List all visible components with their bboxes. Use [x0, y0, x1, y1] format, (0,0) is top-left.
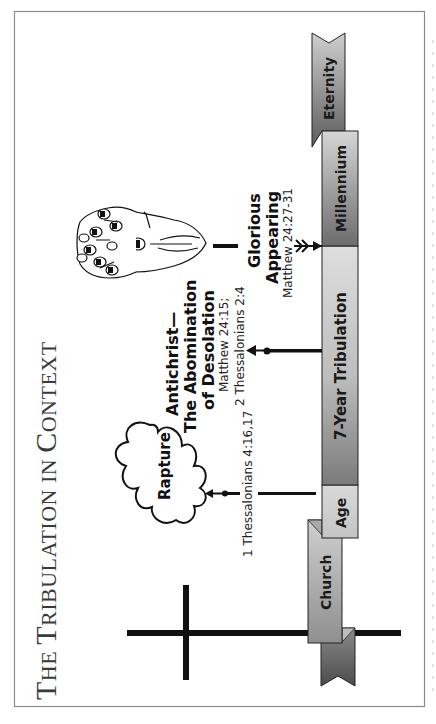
svg-text:Millennium: Millennium [333, 145, 349, 232]
page-title: THE TRIBULATION IN CONTEXT [29, 341, 62, 700]
svg-text:Antichrist—: Antichrist— [163, 312, 182, 416]
svg-text:2 Thessalonians 2:4: 2 Thessalonians 2:4 [233, 286, 247, 406]
tribulation-diagram: THE TRIBULATION IN CONTEXT Church Age 7-… [0, 0, 436, 724]
svg-text:7-Year Tribulation: 7-Year Tribulation [332, 292, 350, 440]
timeline-segment-age: Age [322, 485, 358, 538]
svg-text:Eternity: Eternity [321, 57, 337, 120]
timeline-segment-eternity: Eternity [312, 33, 345, 147]
svg-text:of Desolation: of Desolation [199, 290, 218, 410]
glorious-appearing-label: Glorious Appearing Matthew 24:27-31 [245, 188, 295, 298]
svg-text:1 Thessalonians 4:16,17: 1 Thessalonians 4:16,17 [241, 411, 255, 557]
returning-christ-illustration-icon [77, 207, 206, 278]
timeline-segment-millennium: Millennium [322, 131, 358, 246]
rapture-reference: 1 Thessalonians 4:16,17 [241, 411, 255, 557]
svg-text:Church: Church [318, 555, 334, 610]
cross-icon [127, 585, 401, 680]
svg-text:Matthew 24:15;: Matthew 24:15; [217, 298, 231, 392]
svg-text:Appearing: Appearing [263, 191, 282, 284]
svg-text:The Abomination: The Abomination [181, 280, 200, 433]
svg-text:THE TRIBULATION IN CONTEXT: THE TRIBULATION IN CONTEXT [29, 341, 62, 700]
svg-text:Matthew 24:27-31: Matthew 24:27-31 [281, 188, 295, 298]
rapture-connector [205, 489, 316, 498]
svg-text:Rapture: Rapture [156, 432, 174, 500]
svg-text:Glorious: Glorious [245, 193, 264, 268]
svg-text:Age: Age [333, 498, 349, 528]
rapture-label: Rapture [156, 432, 174, 500]
timeline-segment-tribulation: 7-Year Tribulation [322, 246, 358, 485]
antichrist-connector [246, 345, 322, 356]
antichrist-label: Antichrist— The Abomination of Desolatio… [163, 280, 247, 433]
